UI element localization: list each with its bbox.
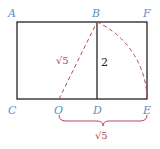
label-B: B bbox=[91, 7, 100, 20]
label-C: C bbox=[8, 104, 17, 117]
label-A: A bbox=[7, 7, 16, 20]
brace-OE bbox=[59, 115, 147, 126]
golden-rectangle-diagram: A B F C O D E √5 2 √5 bbox=[0, 0, 160, 149]
label-D: D bbox=[92, 104, 102, 117]
label-O: O bbox=[54, 104, 63, 117]
label-BD-length: 2 bbox=[101, 56, 108, 69]
rectangle-ACEF bbox=[17, 22, 147, 99]
label-E: E bbox=[142, 104, 151, 117]
label-OB-length: √5 bbox=[56, 55, 69, 66]
label-OE-length: √5 bbox=[95, 130, 108, 141]
label-F: F bbox=[142, 7, 151, 20]
